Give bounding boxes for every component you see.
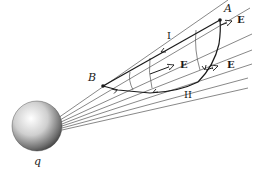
label-path-I: I — [167, 31, 171, 41]
radial-field-lines — [58, 0, 252, 130]
label-E-top: E — [237, 15, 245, 25]
point-A — [218, 18, 222, 22]
field-vectors — [150, 21, 232, 74]
label-E-mid: E — [180, 60, 188, 70]
label-A: A — [224, 3, 232, 14]
equipotential-arcs — [129, 30, 200, 90]
charge-sphere — [12, 101, 62, 151]
path-I — [103, 20, 220, 86]
field-diagram — [0, 0, 256, 180]
point-B — [101, 84, 105, 88]
field-vector-mid — [150, 65, 174, 74]
field-vector-lower — [206, 66, 218, 70]
label-path-II: II — [184, 90, 192, 100]
label-B: B — [88, 72, 96, 83]
label-charge-q: q — [34, 156, 41, 167]
label-E-lower: E — [227, 60, 235, 70]
